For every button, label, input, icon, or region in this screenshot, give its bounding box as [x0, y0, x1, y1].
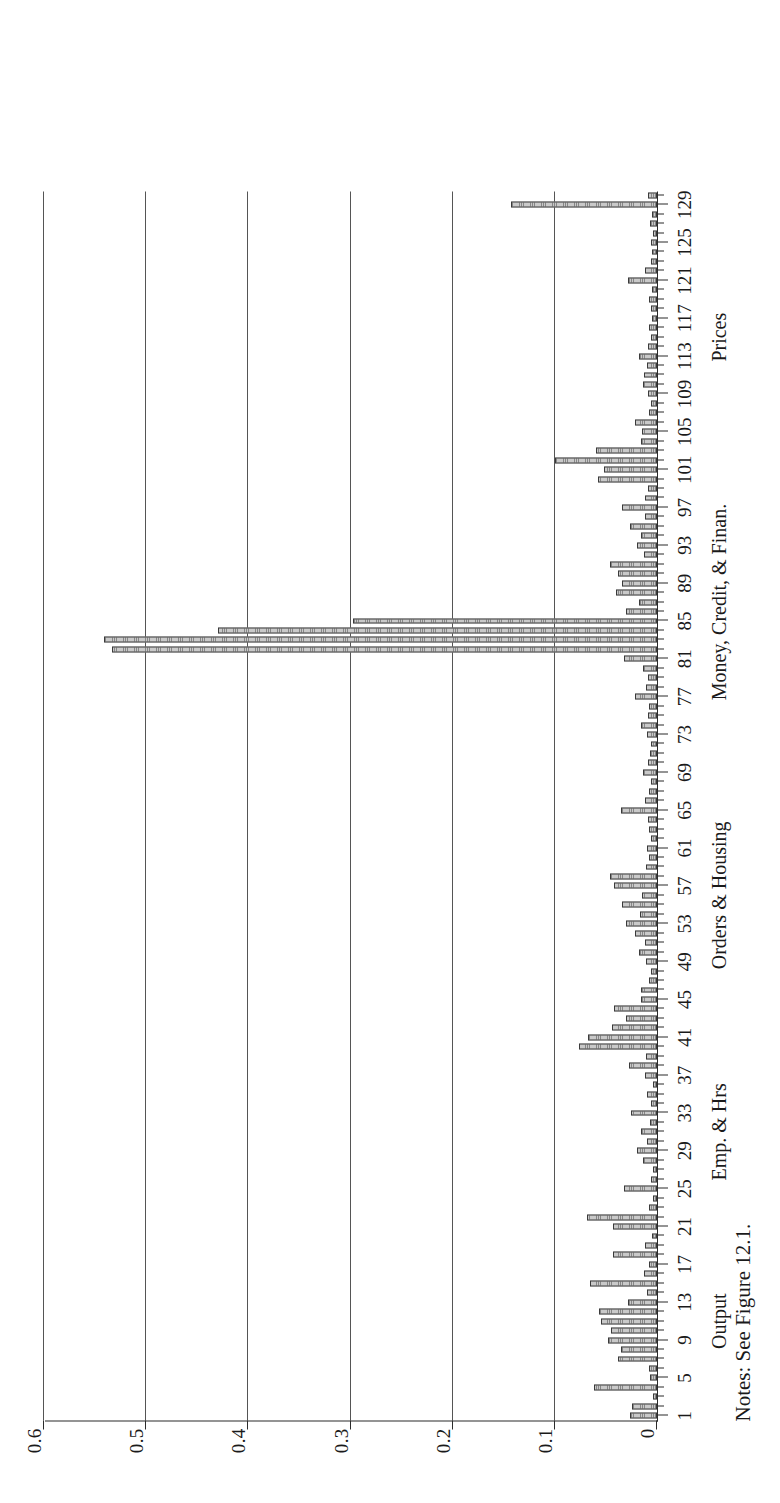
- x-axis-tick-minor: [657, 260, 664, 261]
- bar: [641, 987, 657, 993]
- bar: [648, 391, 657, 397]
- bar: [648, 816, 657, 822]
- bar: [650, 750, 657, 756]
- x-axis-tick-minor: [657, 799, 664, 800]
- bar: [649, 788, 657, 794]
- x-axis-tick-minor: [657, 336, 664, 337]
- x-axis-tick-minor: [657, 232, 664, 233]
- x-axis-tick-minor: [657, 743, 664, 744]
- x-axis-tick-major: [657, 468, 668, 469]
- bar: [637, 1147, 657, 1153]
- x-axis-tick-minor: [657, 714, 664, 715]
- x-axis-tick-minor: [657, 837, 664, 838]
- x-axis-group-label: Prices: [709, 207, 729, 467]
- x-axis-tick-label: 65: [675, 790, 694, 830]
- x-axis-tick-minor: [657, 194, 664, 195]
- bar: [646, 864, 657, 870]
- x-axis-tick-minor: [657, 298, 664, 299]
- x-axis-tick-minor: [657, 1272, 664, 1273]
- bar: [643, 1157, 657, 1163]
- x-axis-tick-label: 113: [675, 336, 694, 376]
- x-axis-tick-minor: [657, 828, 664, 829]
- x-axis-tick-minor: [657, 780, 664, 781]
- x-axis-tick-major: [657, 620, 668, 621]
- bar: [624, 1185, 657, 1191]
- x-axis-tick-minor: [657, 572, 664, 573]
- x-axis-tick-major: [657, 1036, 668, 1037]
- bar: [641, 438, 657, 444]
- bar: [649, 703, 657, 709]
- x-axis-tick-label: 33: [675, 1093, 694, 1133]
- y-axis-tick-label: 0: [638, 1428, 657, 1468]
- bar: [621, 1346, 657, 1352]
- x-axis-tick-minor: [657, 1045, 664, 1046]
- bar: [650, 220, 657, 226]
- x-axis-tick-label: 41: [675, 1017, 694, 1057]
- bar: [622, 901, 657, 907]
- x-axis-tick-minor: [657, 903, 664, 904]
- bar: [641, 532, 657, 538]
- bar: [610, 561, 657, 567]
- x-axis-tick-minor: [657, 676, 664, 677]
- bar: [649, 296, 657, 302]
- x-axis-group-label: Money, Credit, & Finan.: [709, 472, 729, 732]
- x-axis-tick-minor: [657, 364, 664, 365]
- x-axis-tick-label: 89: [675, 563, 694, 603]
- x-axis-tick-major: [657, 922, 668, 923]
- x-axis-tick-major: [657, 1187, 668, 1188]
- bar: [598, 476, 657, 482]
- bar: [635, 930, 657, 936]
- x-axis-tick-major: [657, 1074, 668, 1075]
- x-axis-tick-major: [657, 355, 668, 356]
- x-axis-tick-minor: [657, 515, 664, 516]
- x-axis-tick-minor: [657, 1159, 664, 1160]
- x-axis-tick-minor: [657, 894, 664, 895]
- x-axis-tick-minor: [657, 1367, 664, 1368]
- bar: [640, 911, 657, 917]
- x-axis-tick-minor: [657, 1178, 664, 1179]
- bar: [626, 920, 657, 926]
- x-axis-tick-major: [657, 279, 668, 280]
- x-axis-tick-label: 97: [675, 487, 694, 527]
- bar: [641, 1129, 657, 1135]
- x-axis-tick-minor: [657, 440, 664, 441]
- y-axis-tick-label: 0.4: [229, 1428, 248, 1468]
- x-axis-tick-minor: [657, 1253, 664, 1254]
- bar: [645, 939, 657, 945]
- x-axis-tick-major: [657, 392, 668, 393]
- x-axis-tick-minor: [657, 1130, 664, 1131]
- bar: [643, 665, 657, 671]
- x-axis-tick-label: 117: [675, 298, 694, 338]
- bar: [643, 769, 657, 775]
- bar: [630, 523, 657, 529]
- x-axis-tick-minor: [657, 989, 664, 990]
- bar: [646, 684, 657, 690]
- x-axis-tick-major: [657, 203, 668, 204]
- y-axis-tick-label: 0.2: [434, 1428, 453, 1468]
- x-axis-tick-major: [657, 733, 668, 734]
- bar: [647, 845, 657, 851]
- x-axis-tick-label: 109: [675, 373, 694, 413]
- bar: [649, 1261, 657, 1267]
- x-axis-tick-label: 57: [675, 865, 694, 905]
- bar: [649, 826, 657, 832]
- bar: [648, 760, 657, 766]
- bar: [649, 324, 657, 330]
- x-axis-tick-minor: [657, 534, 664, 535]
- x-axis-tick-minor: [657, 790, 664, 791]
- x-axis-tick-major: [657, 847, 668, 848]
- x-axis-tick-label: 53: [675, 903, 694, 943]
- x-axis-tick-label: 37: [675, 1055, 694, 1095]
- x-axis-tick-minor: [657, 487, 664, 488]
- bar: [646, 1053, 657, 1059]
- bar: [641, 722, 657, 728]
- x-axis-tick-minor: [657, 1197, 664, 1198]
- bar: [647, 1289, 657, 1295]
- bar: [579, 1043, 657, 1049]
- x-axis-tick-major: [657, 430, 668, 431]
- bar: [649, 1204, 657, 1210]
- bar: [104, 637, 657, 643]
- x-axis-tick-major: [657, 1376, 668, 1377]
- x-axis-tick-minor: [657, 913, 664, 914]
- x-axis-tick-major: [657, 809, 668, 810]
